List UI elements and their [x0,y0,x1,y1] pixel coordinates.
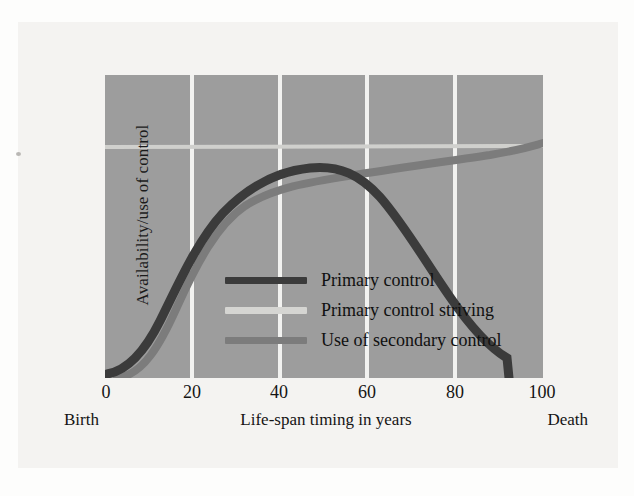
x-tick-40: 40 [270,382,288,403]
figure-page: Primary control Primary control striving… [0,0,634,496]
x-axis-label-row: Birth Life-span timing in years Death [46,410,606,436]
x-tick-80: 80 [446,382,464,403]
legend-label-primary-control: Primary control [321,271,434,289]
legend-item-primary-control-striving: Primary control striving [225,295,525,325]
x-axis-end-label: Death [547,410,588,430]
x-tick-0: 0 [102,382,111,403]
legend-label-primary-control-striving: Primary control striving [321,301,494,319]
x-axis-start-label: Birth [64,410,99,430]
chart-figure: Primary control Primary control striving… [0,0,634,496]
x-axis-tick-labels: 0 20 40 60 80 100 [105,382,543,408]
chart-legend: Primary control Primary control striving… [225,265,525,355]
legend-swatch-primary-control-striving [225,307,307,314]
legend-item-primary-control: Primary control [225,265,525,295]
plot-area: Primary control Primary control striving… [105,75,543,378]
y-axis-title: Availability/use of control [133,65,153,365]
x-axis-title: Life-span timing in years [240,410,411,430]
legend-label-use-of-secondary-control: Use of secondary control [321,331,501,349]
x-tick-60: 60 [358,382,376,403]
x-tick-100: 100 [529,382,556,403]
x-tick-20: 20 [183,382,201,403]
legend-swatch-primary-control [225,277,307,284]
curve-primary-control-striving [105,146,543,147]
legend-swatch-use-of-secondary-control [225,337,307,344]
legend-item-use-of-secondary-control: Use of secondary control [225,325,525,355]
